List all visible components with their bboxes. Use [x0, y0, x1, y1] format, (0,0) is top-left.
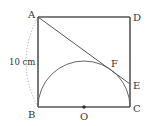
label-a: A — [27, 9, 36, 20]
label-b: B — [28, 109, 35, 120]
side-length-label: 10 cm — [9, 57, 35, 67]
label-c: C — [133, 103, 141, 114]
label-o: O — [80, 111, 88, 122]
label-d: D — [133, 12, 141, 23]
geometry-diagram: A D B C O E F 10 cm — [0, 0, 147, 126]
center-point-o — [82, 105, 86, 109]
label-e: E — [133, 80, 140, 91]
label-f: F — [111, 58, 118, 69]
